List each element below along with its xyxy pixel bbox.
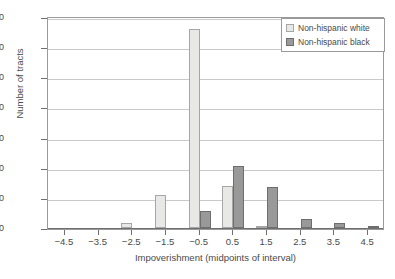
y-tick-label-120: 120 — [0, 43, 4, 52]
bar-black-0.5 — [233, 166, 244, 228]
y-tick-label-60: 60 — [0, 134, 4, 143]
x-tick-mark-6 — [266, 230, 267, 235]
bar-white--0.5 — [189, 29, 200, 228]
legend-item-label: Non-hispanic white — [298, 24, 370, 33]
y-tick-label-80: 80 — [0, 103, 4, 112]
x-tick-mark-4 — [199, 230, 200, 235]
legend-item-0: Non-hispanic white — [286, 22, 380, 34]
y-tick-label-0: 0 — [0, 224, 4, 233]
white-swatch-icon — [286, 24, 294, 32]
bar-black-2.5 — [301, 219, 312, 228]
x-tick-mark-7 — [300, 230, 301, 235]
x-tick-mark-2 — [131, 230, 132, 235]
y-tick-label-40: 40 — [0, 164, 4, 173]
x-tick-mark-1 — [98, 230, 99, 235]
bar-white-0.5 — [222, 186, 233, 228]
x-tick-mark-3 — [165, 230, 166, 235]
legend-item-label: Non-hispanic black — [298, 38, 370, 47]
legend-item-1: Non-hispanic black — [286, 36, 380, 48]
x-tick-label-9: 4.5 — [347, 237, 387, 247]
x-axis-baseline — [48, 228, 383, 229]
gridline-100 — [48, 79, 383, 80]
gridline-60 — [48, 140, 383, 141]
figure-histogram: Number of tracts 020406080100120140 −4.5… — [0, 0, 395, 279]
y-axis-label: Number of tracts — [14, 24, 25, 144]
y-tick-label-140: 140 — [0, 13, 4, 22]
gridline-80 — [48, 109, 383, 110]
y-tick-label-20: 20 — [0, 194, 4, 203]
bar-black--0.5 — [200, 211, 211, 228]
black-swatch-icon — [286, 38, 294, 46]
x-axis-label: Impoverishment (midpoints of interval) — [47, 252, 384, 263]
chart-legend: Non-hispanic whiteNon-hispanic black — [281, 18, 385, 52]
x-tick-mark-5 — [232, 230, 233, 235]
x-tick-mark-0 — [64, 230, 65, 235]
bar-black-1.5 — [267, 187, 278, 228]
y-tick-label-100: 100 — [0, 73, 4, 82]
x-tick-mark-8 — [333, 230, 334, 235]
bar-white--1.5 — [155, 195, 166, 228]
x-tick-mark-9 — [367, 230, 368, 235]
gridline-40 — [48, 170, 383, 171]
gridline-20 — [48, 200, 383, 201]
